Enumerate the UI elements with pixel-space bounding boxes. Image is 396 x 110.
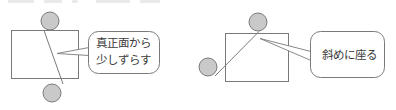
desk-rect-right xyxy=(226,34,289,82)
person-bottom-left-panel xyxy=(43,84,61,102)
diagram-canvas: 真正面から 少しずらす 斜めに座る xyxy=(0,0,396,110)
diagram-svg: 真正面から 少しずらす 斜めに座る xyxy=(0,0,396,110)
panel-right: 斜めに座る xyxy=(199,13,385,82)
callout-left-line-2: 少しずらす xyxy=(96,53,151,67)
person-top-left-panel xyxy=(41,12,59,30)
panel-left: 真正面から 少しずらす xyxy=(12,12,160,102)
callout-left-line-1: 真正面から xyxy=(96,36,151,50)
person-top-right-panel xyxy=(249,13,267,31)
person-left-right-panel xyxy=(199,58,217,76)
callout-right-line-1: 斜めに座る xyxy=(322,48,377,62)
